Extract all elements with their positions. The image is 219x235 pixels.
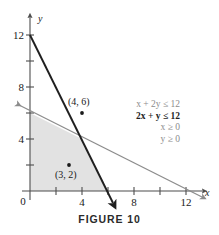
inequality-annotations: x + 2y ≤ 12 2x + y ≤ 12 x ≥ 0 y ≥ 0 <box>106 99 180 145</box>
inequality-line-4: y ≥ 0 <box>106 134 180 146</box>
data-point-3-2 <box>67 163 71 167</box>
y-tick-label-4: 4 <box>19 133 25 145</box>
figure-container: 12 8 4 0 4 8 12 y x (4, 6) (3, 2) x + 2y… <box>0 0 219 235</box>
x-tick-label-0: 0 <box>20 195 26 207</box>
y-axis-label: y <box>37 13 43 24</box>
x-axis-label: x <box>204 187 210 198</box>
y-tick-label-12: 12 <box>13 29 24 41</box>
inequality-line-1: x + 2y ≤ 12 <box>106 99 180 111</box>
inequality-line-3: x ≥ 0 <box>106 122 180 134</box>
x-tick-label-4: 4 <box>79 196 85 208</box>
x-tick-label-12: 12 <box>181 196 192 208</box>
x-tick-label-8: 8 <box>131 196 137 208</box>
inequality-line-2: 2x + y ≤ 12 <box>106 111 180 123</box>
y-tick-label-8: 8 <box>19 81 25 93</box>
figure-caption: FIGURE 10 <box>0 213 219 225</box>
data-point-label-4-6: (4, 6) <box>68 96 90 108</box>
data-point-label-3-2: (3, 2) <box>55 169 77 181</box>
data-point-4-6 <box>80 111 84 115</box>
